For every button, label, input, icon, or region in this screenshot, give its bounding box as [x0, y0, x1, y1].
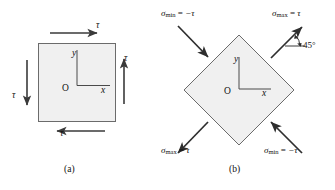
shear-label-bottom-a: τ [60, 128, 63, 138]
stress-label-bottom-right-b: σmin = −τ [264, 145, 297, 155]
panel-caption-b: (b) [229, 164, 240, 174]
shear-label-right-a: τ [124, 53, 127, 63]
value-top-left: −τ [185, 8, 194, 18]
value-bottom-right: −τ [288, 145, 297, 155]
axis-label-y-b: y [234, 54, 238, 64]
angle-label-45: 45° [303, 40, 316, 50]
figure-container: τ τ τ τ y x O (a) y x O σmin = −τ σmax =… [0, 0, 335, 190]
equals-bottom-left: = [179, 145, 184, 155]
sigma-subscript-top-right: max [276, 11, 287, 18]
axis-label-x-a: x [101, 85, 105, 95]
equals-bottom-right: = [281, 145, 286, 155]
sigma-subscript-bottom-left: max [165, 148, 176, 155]
panel-b-group [178, 26, 305, 153]
origin-label-a: O [62, 83, 69, 93]
value-top-right: τ [297, 8, 300, 18]
axis-label-y-a: y [72, 48, 76, 58]
value-bottom-left: τ [186, 145, 189, 155]
stress-label-top-right-b: σmax = τ [272, 8, 300, 18]
shear-label-left-a: τ [12, 90, 15, 100]
equals-top-right: = [290, 8, 295, 18]
stress-label-bottom-left-b: σmax = τ [161, 145, 189, 155]
axis-label-x-b: x [262, 88, 266, 98]
stress-arrow-top-left-b [178, 26, 208, 57]
figure-svg [0, 0, 335, 190]
sigma-subscript-bottom-right: min [268, 148, 278, 155]
sigma-subscript-top-left: min [165, 11, 175, 18]
stress-label-top-left-b: σmin = −τ [161, 8, 194, 18]
stress-arrow-top-right-b [271, 27, 302, 58]
angle-arc-arrowhead-icon [294, 35, 299, 39]
shear-label-top-a: τ [96, 20, 99, 30]
panel-caption-a: (a) [64, 164, 75, 174]
equals-top-left: = [178, 8, 183, 18]
origin-label-b: O [224, 86, 231, 96]
